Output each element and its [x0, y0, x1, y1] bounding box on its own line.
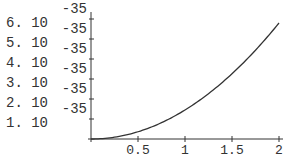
y-tick-label: 4. 10	[6, 55, 48, 71]
data-line	[91, 23, 279, 139]
y-tick-exponent: -35	[62, 21, 87, 37]
axes	[88, 12, 283, 142]
y-tick-label: 6. 10	[6, 15, 48, 31]
y-tick-exponent: -35	[62, 41, 87, 57]
y-tick-label: 3. 10	[6, 75, 48, 91]
y-tick-exponent: -35	[62, 81, 87, 97]
x-tick-label: 2	[275, 143, 283, 158]
x-tick-label: 1.5	[220, 143, 243, 158]
y-tick-exponent: -35	[62, 1, 87, 17]
x-tick-label: 1	[181, 143, 189, 158]
y-tick-label: 1. 10	[6, 115, 48, 131]
chart: 0.511.52 1. 10-352. 10-353. 10-354. 10-3…	[0, 0, 295, 158]
x-tick-label: 0.5	[126, 143, 149, 158]
y-tick-label: 2. 10	[6, 95, 48, 111]
y-tick-label: 5. 10	[6, 35, 48, 51]
y-ticks: 1. 10-352. 10-353. 10-354. 10-355. 10-35…	[6, 1, 94, 131]
y-tick-exponent: -35	[62, 101, 87, 117]
y-tick-exponent: -35	[62, 61, 87, 77]
